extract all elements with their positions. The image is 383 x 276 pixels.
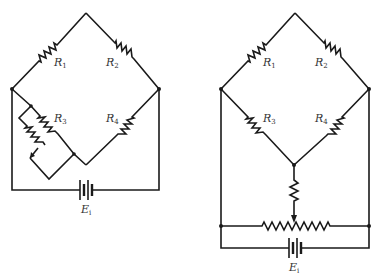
left-r1-resistor [12, 13, 86, 89]
left-r4-resistor [86, 89, 159, 165]
left-r2-label: R2 [105, 56, 119, 70]
right-bridge-circuit: R1 R2 R3 R4 Ei [219, 13, 371, 275]
right-r3-label: R3 [262, 112, 276, 126]
right-r1-label: R1 [262, 56, 276, 70]
circuit-figure: R1 R2 R3 R4 Ei [0, 0, 383, 276]
left-bridge-circuit: R1 R2 R3 R4 Ei [10, 13, 161, 217]
right-r2-resistor [295, 13, 369, 89]
left-r3-label: R3 [53, 112, 67, 126]
right-galvanometer-resistor [290, 165, 298, 223]
left-r4-label: R4 [105, 112, 119, 126]
right-r4-label: R4 [314, 112, 328, 126]
right-r4-resistor [294, 89, 369, 165]
left-r2-resistor [86, 13, 159, 89]
right-ei-label: Ei [288, 261, 300, 275]
right-r2-label: R2 [314, 56, 328, 70]
right-r3-resistor [221, 89, 294, 165]
right-slide-wire-potentiometer [221, 222, 369, 230]
right-r1-resistor [221, 13, 295, 89]
left-ei-label: Ei [80, 203, 92, 217]
left-battery-loop [12, 89, 159, 200]
right-battery-loop [221, 89, 369, 258]
left-r1-label: R1 [53, 56, 67, 70]
